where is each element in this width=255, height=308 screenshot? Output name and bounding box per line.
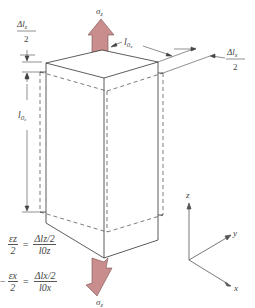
eq2-lhs: εx 2 bbox=[8, 270, 18, 293]
dimension-l0z bbox=[22, 74, 40, 212]
eq1-rhs: Δlz/2 l0z bbox=[33, 233, 55, 256]
equation-x-strain: − εx 2 = Δlx/2 l0x bbox=[0, 270, 59, 293]
dim-delta-lz-den: 2 bbox=[24, 34, 29, 44]
stress-arrow-bottom-icon bbox=[86, 258, 112, 296]
original-specimen-outline bbox=[40, 72, 163, 232]
dimension-delta-lx bbox=[158, 47, 225, 73]
sigma-z-bottom-label: σz bbox=[96, 297, 103, 308]
dim-delta-lx-num: Δlx bbox=[226, 47, 238, 58]
dim-delta-lz-num: Δlz bbox=[16, 19, 28, 30]
axis-y-label: y bbox=[232, 228, 237, 238]
eq2-rhs: Δlx/2 l0x bbox=[34, 270, 57, 293]
axis-z-label: z bbox=[185, 190, 190, 200]
eq2-sign: − bbox=[0, 276, 6, 287]
coordinate-axes bbox=[187, 203, 231, 286]
sigma-z-top-label: σz bbox=[96, 6, 103, 17]
dim-l0x-label: l0x bbox=[124, 36, 133, 49]
dim-delta-lx-den: 2 bbox=[233, 62, 238, 72]
strain-diagram: σz σz Δ bbox=[0, 0, 255, 308]
eq1-lhs: εz 2 bbox=[8, 233, 18, 256]
axis-x-label: x bbox=[233, 283, 238, 293]
equation-z-strain: εz 2 = Δlz/2 l0z bbox=[6, 233, 58, 256]
dimension-delta-lz bbox=[20, 50, 42, 82]
dim-l0z-label: l0z bbox=[18, 109, 26, 122]
deformed-specimen bbox=[46, 50, 158, 258]
